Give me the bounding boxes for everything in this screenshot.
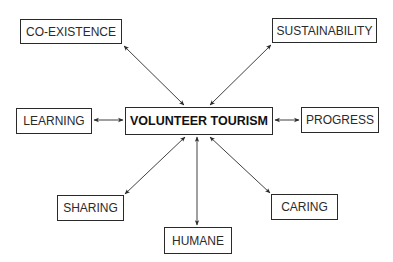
node-co-existence: CO-EXISTENCE bbox=[20, 19, 122, 44]
node-sustainability: SUSTAINABILITY bbox=[272, 18, 377, 43]
node-progress: PROGRESS bbox=[301, 107, 379, 133]
node-label: LEARNING bbox=[23, 114, 84, 128]
node-label: CO-EXISTENCE bbox=[26, 25, 116, 39]
center-node-volunteer-tourism: VOLUNTEER TOURISM bbox=[125, 107, 273, 135]
connector-caring bbox=[210, 137, 270, 193]
connector-co-existence bbox=[124, 46, 184, 105]
node-sharing: SHARING bbox=[57, 195, 124, 221]
center-node-label: VOLUNTEER TOURISM bbox=[130, 114, 268, 128]
node-label: HUMANE bbox=[172, 234, 224, 248]
connector-sustainability bbox=[210, 45, 271, 105]
node-caring: CARING bbox=[271, 194, 338, 220]
connector-sharing bbox=[125, 137, 185, 194]
node-label: PROGRESS bbox=[306, 113, 374, 127]
node-label: SHARING bbox=[63, 201, 118, 215]
node-learning: LEARNING bbox=[16, 108, 92, 134]
volunteer-tourism-diagram: VOLUNTEER TOURISM CO-EXISTENCE SUSTAINAB… bbox=[0, 0, 393, 262]
node-label: SUSTAINABILITY bbox=[277, 24, 373, 38]
node-label: CARING bbox=[281, 200, 328, 214]
node-humane: HUMANE bbox=[164, 227, 232, 254]
